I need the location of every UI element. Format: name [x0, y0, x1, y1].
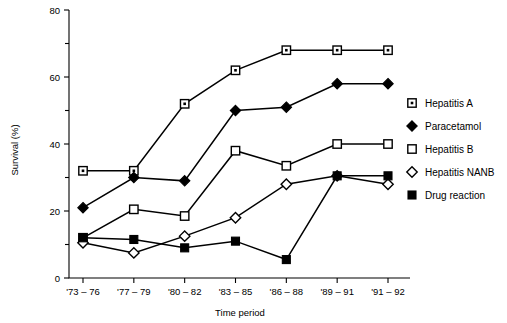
data-point-square-open [333, 140, 341, 148]
data-point-square-filled [282, 256, 290, 264]
data-point-square-open [384, 140, 392, 148]
data-point-diamond-open [179, 231, 189, 241]
x-axis-tick-labels: '73 – 76'77 – 79'80 – 82'83 – 85'86 – 88… [66, 286, 405, 297]
data-point-square-dot [333, 46, 341, 54]
data-point-square-filled [130, 235, 138, 243]
chart-page: 020406080 '73 – 76'77 – 79'80 – 82'83 – … [0, 0, 507, 323]
legend-item-label: Hepatitis B [425, 144, 474, 155]
data-point-square-open [231, 147, 239, 155]
series-path [83, 84, 388, 208]
markers-paracetamol [78, 79, 393, 213]
data-point-square-filled [408, 191, 416, 199]
data-point-square-filled [181, 244, 189, 252]
y-axis-title: Survival (%) [9, 124, 20, 175]
data-point-diamond-open [383, 179, 393, 189]
x-tick-label: '73 – 76 [66, 286, 100, 297]
data-point-diamond-filled [230, 105, 240, 115]
data-point-square-dot [231, 66, 239, 74]
data-point-diamond-filled [332, 79, 342, 89]
legend-item-label: Hepatitis NANB [425, 167, 495, 178]
data-point-square-dot [79, 167, 87, 175]
series-paracetamol [83, 84, 388, 208]
x-axis-title: Time period [215, 307, 265, 318]
data-point-square-dot [384, 46, 392, 54]
markers-hepatitis-b [79, 140, 392, 242]
x-tick-label: '91 – 92 [371, 286, 405, 297]
y-tick-label: 40 [49, 139, 60, 150]
data-point-square-dot [180, 100, 188, 108]
legend-item-label: Paracetamol [425, 121, 481, 132]
data-point-square-filled [333, 172, 341, 180]
legend-item-hepatitis-a: Hepatitis A [408, 98, 473, 109]
survival-line-chart: 020406080 '73 – 76'77 – 79'80 – 82'83 – … [0, 0, 507, 323]
y-tick-label: 60 [49, 72, 60, 83]
data-point-square-open [180, 212, 188, 220]
legend-item-hepatitis-nanb: Hepatitis NANB [407, 167, 495, 178]
data-point-diamond-open [407, 167, 417, 177]
data-point-diamond-filled [281, 102, 291, 112]
y-tick-label: 0 [55, 273, 60, 284]
data-point-square-filled [384, 172, 392, 180]
data-point-square-dot [282, 46, 290, 54]
legend-item-paracetamol: Paracetamol [407, 121, 481, 132]
data-point-square-open [408, 145, 416, 153]
data-point-square-filled [232, 237, 240, 245]
legend-item-label: Hepatitis A [425, 98, 473, 109]
data-point-square-open [130, 205, 138, 213]
data-point-diamond-filled [383, 79, 393, 89]
data-series [78, 46, 393, 264]
x-tick-label: '83 – 85 [219, 286, 253, 297]
legend-item-hepatitis-b: Hepatitis B [408, 144, 474, 155]
x-tick-label: '77 – 79 [117, 286, 151, 297]
data-point-square-filled [79, 234, 87, 242]
data-point-diamond-filled [78, 202, 88, 212]
y-axis-tick-labels: 020406080 [49, 5, 60, 284]
data-point-square-open [282, 162, 290, 170]
x-tick-label: '80 – 82 [168, 286, 202, 297]
data-point-diamond-open [230, 213, 240, 223]
legend-item-label: Drug reaction [425, 190, 485, 201]
data-point-diamond-open [281, 179, 291, 189]
data-point-diamond-open [129, 248, 139, 258]
data-point-diamond-filled [407, 121, 417, 131]
y-tick-label: 20 [49, 206, 60, 217]
x-tick-label: '86 – 88 [270, 286, 304, 297]
x-tick-label: '89 – 91 [320, 286, 354, 297]
data-point-diamond-filled [179, 176, 189, 186]
data-point-square-dot [408, 99, 416, 107]
legend-item-drug-reaction: Drug reaction [408, 190, 485, 201]
legend: Hepatitis AParacetamolHepatitis BHepatit… [407, 98, 495, 201]
y-tick-label: 80 [49, 5, 60, 16]
